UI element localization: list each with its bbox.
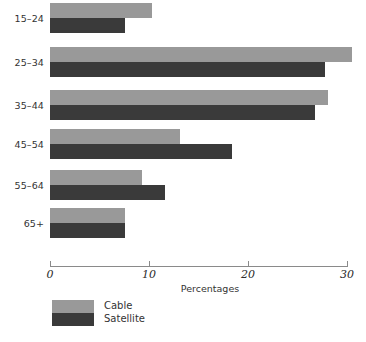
category-label: 15–24 xyxy=(0,13,44,24)
legend-swatch-satellite xyxy=(52,313,94,326)
x-tick xyxy=(248,261,249,267)
bar-cable-25–34 xyxy=(50,47,352,62)
x-tick xyxy=(347,261,348,267)
legend-label-satellite: Satellite xyxy=(104,313,145,324)
bar-cable-45–54 xyxy=(50,129,180,144)
bar-satellite-55–64 xyxy=(50,185,165,200)
x-tick-label: 10 xyxy=(136,268,162,281)
category-label: 35–44 xyxy=(0,100,44,111)
x-tick-label: 30 xyxy=(334,268,360,281)
bar-cable-15–24 xyxy=(50,3,152,18)
x-axis-title-text: Percentages xyxy=(181,283,239,294)
x-axis-title: Percentages xyxy=(0,283,366,294)
bar-cable-65+ xyxy=(50,208,125,223)
category-label: 25–34 xyxy=(0,57,44,68)
x-axis-line xyxy=(50,266,347,267)
bar-satellite-15–24 xyxy=(50,18,125,33)
grouped-bar-chart: 15–2425–3435–4445–5455–6465+ 0102030 Per… xyxy=(0,0,366,342)
category-label: 45–54 xyxy=(0,139,44,150)
legend-swatch-cable xyxy=(52,300,94,313)
bar-cable-35–44 xyxy=(50,90,328,105)
x-tick xyxy=(50,261,51,267)
x-tick-label: 20 xyxy=(235,268,261,281)
x-tick xyxy=(149,261,150,267)
category-label: 55–64 xyxy=(0,180,44,191)
bar-satellite-65+ xyxy=(50,223,125,238)
bar-satellite-25–34 xyxy=(50,62,325,77)
bar-cable-55–64 xyxy=(50,170,142,185)
category-label: 65+ xyxy=(0,218,44,229)
legend-label-cable: Cable xyxy=(104,300,132,311)
x-tick-label: 0 xyxy=(37,268,63,281)
bar-satellite-45–54 xyxy=(50,144,232,159)
bar-satellite-35–44 xyxy=(50,105,315,120)
